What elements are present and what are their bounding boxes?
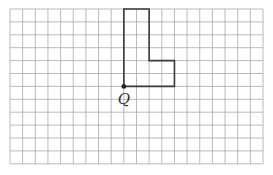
point-q-label: Q	[118, 90, 130, 108]
point-q-marker	[121, 84, 126, 89]
grid-diagram	[0, 0, 273, 175]
